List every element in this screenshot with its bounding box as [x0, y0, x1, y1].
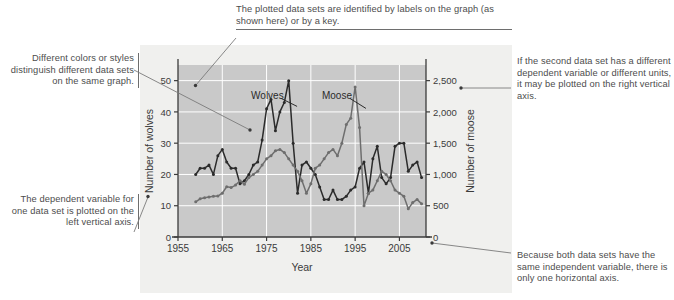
figure-root: The plotted data sets are identified by …: [0, 0, 674, 300]
plot-area-background: [178, 65, 426, 237]
series-marker-moose: [292, 164, 295, 167]
series-marker-moose: [376, 179, 379, 182]
series-marker-wolves: [376, 145, 379, 148]
series-marker-moose: [380, 170, 383, 173]
series-marker-wolves: [358, 167, 361, 170]
series-marker-wolves: [287, 79, 290, 82]
chart-container: 0102030405005001,0001,5002,0002,50019551…: [140, 45, 512, 293]
series-marker-wolves: [305, 160, 308, 163]
series-marker-wolves: [309, 167, 312, 170]
series-marker-wolves: [208, 164, 211, 167]
series-marker-moose: [354, 85, 357, 88]
right-axis-title: Number of moose: [464, 109, 476, 193]
series-marker-moose: [371, 189, 374, 192]
series-marker-moose: [243, 183, 246, 186]
series-marker-wolves: [371, 157, 374, 160]
series-marker-moose: [309, 182, 312, 185]
left-axis-tick-label: 0: [166, 232, 171, 243]
series-marker-moose: [265, 157, 268, 160]
series-marker-wolves: [349, 189, 352, 192]
callout-left-series-styles: Different colors or styles distinguish d…: [8, 53, 139, 88]
series-marker-moose: [416, 198, 419, 201]
right-axis-tick-label: 1,500: [433, 138, 457, 149]
right-axis-tick-label: 2,000: [433, 107, 457, 118]
series-marker-wolves: [256, 160, 259, 163]
series-marker-moose: [336, 154, 339, 157]
right-axis-tick-label: 500: [433, 200, 449, 211]
series-marker-moose: [278, 148, 281, 151]
series-marker-moose: [314, 167, 317, 170]
series-marker-wolves: [318, 185, 321, 188]
series-marker-wolves: [278, 110, 281, 113]
series-marker-moose: [349, 117, 352, 120]
series-marker-moose: [389, 179, 392, 182]
series-marker-wolves: [252, 164, 255, 167]
series-marker-wolves: [327, 198, 330, 201]
series-marker-moose: [332, 148, 335, 151]
series-marker-moose: [301, 179, 304, 182]
series-marker-wolves: [354, 185, 357, 188]
series-marker-wolves: [199, 167, 202, 170]
series-marker-moose: [270, 154, 273, 157]
x-axis-tick-label: 1995: [344, 243, 367, 254]
series-marker-moose: [367, 192, 370, 195]
series-marker-moose: [230, 186, 233, 189]
series-marker-moose: [225, 185, 228, 188]
series-label-wolves: Wolves: [251, 90, 284, 101]
series-marker-wolves: [332, 189, 335, 192]
series-marker-wolves: [212, 173, 215, 176]
series-marker-moose: [345, 123, 348, 126]
series-marker-wolves: [221, 148, 224, 151]
series-marker-moose: [208, 196, 211, 199]
series-marker-wolves: [194, 173, 197, 176]
series-marker-moose: [203, 196, 206, 199]
series-marker-moose: [274, 149, 277, 152]
series-marker-moose: [340, 142, 343, 145]
x-axis-tick-label: 1965: [211, 243, 234, 254]
series-marker-wolves: [411, 164, 414, 167]
series-marker-wolves: [416, 160, 419, 163]
series-marker-moose: [394, 189, 397, 192]
x-axis-tick-label: 2005: [388, 243, 411, 254]
series-marker-moose: [256, 170, 259, 173]
series-marker-moose: [407, 207, 410, 210]
series-marker-moose: [318, 164, 321, 167]
series-marker-moose: [252, 173, 255, 176]
series-marker-wolves: [363, 160, 366, 163]
series-marker-moose: [411, 201, 414, 204]
series-marker-moose: [287, 157, 290, 160]
series-marker-moose: [305, 192, 308, 195]
series-marker-moose: [261, 164, 264, 167]
series-marker-wolves: [274, 129, 277, 132]
left-axis-tick-label: 40: [160, 107, 171, 118]
callout-left-dependent-variable: The dependent variable for one data set …: [8, 194, 139, 229]
series-marker-moose: [402, 195, 405, 198]
series-marker-moose: [239, 179, 242, 182]
series-marker-wolves: [292, 142, 295, 145]
series-marker-wolves: [203, 167, 206, 170]
series-marker-moose: [194, 200, 197, 203]
series-marker-wolves: [407, 170, 410, 173]
left-axis-tick-label: 20: [160, 169, 171, 180]
series-marker-wolves: [345, 195, 348, 198]
series-marker-wolves: [420, 176, 423, 179]
series-marker-wolves: [380, 176, 383, 179]
left-axis-tick-label: 50: [160, 75, 171, 86]
left-axis-tick-label: 10: [160, 200, 171, 211]
series-marker-wolves: [247, 173, 250, 176]
series-marker-wolves: [323, 198, 326, 201]
series-marker-wolves: [234, 167, 237, 170]
series-marker-wolves: [301, 164, 304, 167]
series-marker-moose: [363, 204, 366, 207]
series-label-moose: Moose: [322, 90, 352, 101]
x-axis-title: Year: [291, 261, 313, 273]
right-axis-tick-label: 0: [433, 232, 438, 243]
series-marker-wolves: [296, 192, 299, 195]
series-marker-wolves: [394, 145, 397, 148]
series-marker-moose: [221, 192, 224, 195]
series-marker-wolves: [225, 160, 228, 163]
series-marker-wolves: [230, 167, 233, 170]
series-marker-wolves: [265, 107, 268, 110]
series-marker-wolves: [385, 182, 388, 185]
series-marker-moose: [420, 202, 423, 205]
